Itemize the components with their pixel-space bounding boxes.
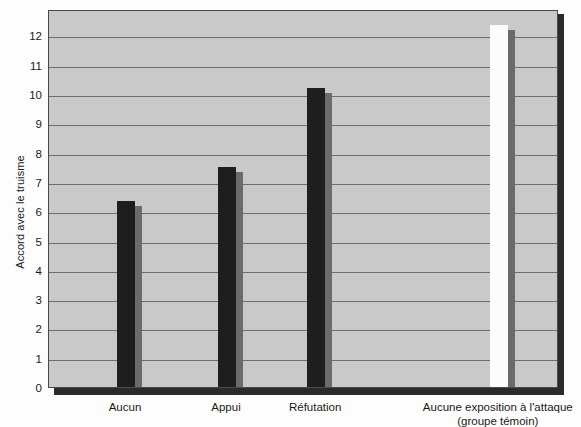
- gridline: [49, 37, 557, 38]
- bar-fill: [218, 167, 236, 387]
- x-axis-tick-label: Réfutation: [289, 400, 341, 414]
- bar-chart: Accord avec le truisme 0123456789101112 …: [0, 0, 581, 427]
- x-axis-tick-label-line: (groupe témoin): [423, 414, 573, 427]
- bar-fill: [307, 88, 325, 387]
- y-axis-tick-label: 3: [36, 294, 42, 306]
- y-axis-tick-label: 5: [36, 236, 42, 248]
- gridline: [49, 125, 557, 126]
- bar: [307, 88, 325, 387]
- y-axis-tick-label: 9: [36, 118, 42, 130]
- bar-side-shadow: [508, 30, 515, 387]
- y-axis-tick-label: 2: [36, 323, 42, 335]
- x-axis-tick-label: Appui: [211, 400, 240, 414]
- y-axis-tick-label: 10: [29, 89, 42, 101]
- gridline: [49, 67, 557, 68]
- gridline: [49, 155, 557, 156]
- x-axis-tick-label: Aucun: [109, 400, 142, 414]
- bar-side-shadow: [325, 93, 332, 387]
- x-axis-tick-label-line: Réfutation: [289, 400, 341, 414]
- y-axis-tick-label: 8: [36, 148, 42, 160]
- x-axis-tick-labels: AucunAppuiRéfutationAucune exposition à …: [0, 394, 581, 427]
- y-axis-tick-labels: 0123456789101112: [0, 0, 48, 427]
- y-axis-tick-label: 12: [29, 30, 42, 42]
- x-axis-tick-label: Aucune exposition à l'attaque(groupe tém…: [423, 400, 573, 427]
- y-axis-tick-label: 1: [36, 353, 42, 365]
- bar: [218, 167, 236, 387]
- bar-fill: [117, 201, 135, 387]
- y-axis-tick-label: 0: [36, 382, 42, 394]
- bar-side-shadow: [236, 172, 243, 387]
- y-axis-tick-label: 7: [36, 177, 42, 189]
- bar-side-shadow: [135, 206, 142, 387]
- bar: [490, 25, 508, 387]
- gridline: [49, 96, 557, 97]
- x-axis-tick-label-line: Appui: [211, 400, 240, 414]
- y-axis-tick-label: 11: [30, 60, 42, 72]
- bar: [117, 201, 135, 387]
- y-axis-tick-label: 6: [36, 206, 42, 218]
- x-axis-tick-label-line: Aucune exposition à l'attaque: [423, 400, 573, 414]
- y-axis-tick-label: 4: [36, 265, 42, 277]
- plot-area: [48, 10, 558, 388]
- gridline: [49, 184, 557, 185]
- x-axis-tick-label-line: Aucun: [109, 400, 142, 414]
- bar-fill: [490, 25, 508, 387]
